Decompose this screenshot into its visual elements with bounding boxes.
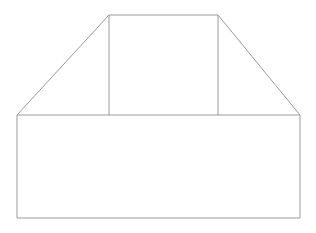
line-figure: [0, 0, 316, 233]
canvas-background: [0, 0, 316, 233]
drawing-canvas: [0, 0, 316, 233]
